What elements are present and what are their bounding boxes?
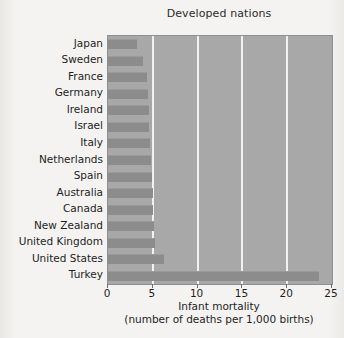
x-axis-title-line2: (number of deaths per 1,000 births) bbox=[95, 313, 343, 326]
y-axis-label-united-kingdom: United Kingdom bbox=[0, 236, 103, 247]
y-axis-label-japan: Japan bbox=[0, 38, 103, 49]
y-axis-label-netherlands: Netherlands bbox=[0, 154, 103, 165]
gridline-10 bbox=[197, 36, 199, 284]
bar-new-zealand bbox=[108, 221, 154, 231]
y-axis-label-turkey: Turkey bbox=[0, 269, 103, 280]
bar-japan bbox=[108, 39, 137, 49]
y-axis-label-spain: Spain bbox=[0, 170, 103, 181]
y-axis-label-france: France bbox=[0, 71, 103, 82]
y-axis-label-israel: Israel bbox=[0, 120, 103, 131]
bar-ireland bbox=[108, 105, 149, 115]
y-axis-label-italy: Italy bbox=[0, 137, 103, 148]
bar-united-states bbox=[108, 254, 164, 264]
y-axis-label-sweden: Sweden bbox=[0, 54, 103, 65]
bar-israel bbox=[108, 122, 149, 132]
x-tick-label-20: 20 bbox=[280, 287, 293, 299]
bar-australia bbox=[108, 188, 153, 198]
x-tick-label-0: 0 bbox=[104, 287, 111, 299]
plot-area bbox=[107, 35, 333, 285]
x-axis-title: Infant mortality (number of deaths per 1… bbox=[95, 300, 343, 326]
x-tick-label-10: 10 bbox=[190, 287, 203, 299]
y-axis-label-ireland: Ireland bbox=[0, 104, 103, 115]
bar-turkey bbox=[108, 271, 319, 281]
x-axis-ticks: 0510152025 bbox=[107, 284, 333, 298]
bar-spain bbox=[108, 172, 152, 182]
gridline-15 bbox=[241, 36, 243, 284]
x-tick-label-5: 5 bbox=[148, 287, 155, 299]
y-axis-label-new-zealand: New Zealand bbox=[0, 220, 103, 231]
bar-united-kingdom bbox=[108, 238, 155, 248]
y-axis-label-canada: Canada bbox=[0, 203, 103, 214]
bar-sweden bbox=[108, 56, 143, 66]
y-axis-labels: JapanSwedenFranceGermanyIrelandIsraelIta… bbox=[0, 35, 103, 283]
chart-title: Developed nations bbox=[107, 7, 331, 20]
x-axis-title-line1: Infant mortality bbox=[95, 300, 343, 313]
x-tick-label-25: 25 bbox=[324, 287, 337, 299]
chart-figure: Developed nations JapanSwedenFranceGerma… bbox=[0, 0, 344, 338]
bar-germany bbox=[108, 89, 148, 99]
bar-italy bbox=[108, 138, 150, 148]
y-axis-label-germany: Germany bbox=[0, 87, 103, 98]
y-axis-label-united-states: United States bbox=[0, 253, 103, 264]
bar-canada bbox=[108, 205, 153, 215]
y-axis-label-australia: Australia bbox=[0, 187, 103, 198]
bar-france bbox=[108, 72, 147, 82]
gridline-20 bbox=[286, 36, 288, 284]
bar-netherlands bbox=[108, 155, 151, 165]
x-tick-label-15: 15 bbox=[235, 287, 248, 299]
